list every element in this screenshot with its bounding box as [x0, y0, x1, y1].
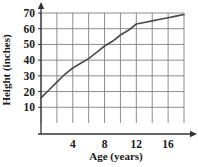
x-axis-arrowhead — [190, 131, 197, 137]
chart-container: 10203040506070 481216 Age (years) Height… — [0, 0, 198, 167]
gridlines-horizontal — [41, 13, 184, 107]
x-axis-tick-labels: 481216 — [70, 138, 174, 150]
y-axis-title: Height (inches) — [0, 34, 13, 106]
y-axis-tick-label: 30 — [24, 70, 36, 82]
y-axis-tick-label: 10 — [24, 101, 36, 113]
x-axis-tick-label: 4 — [70, 138, 76, 150]
y-axis-tick-label: 40 — [24, 54, 36, 66]
y-axis-tick-label: 50 — [24, 38, 36, 50]
axis-lines — [38, 2, 197, 137]
x-axis-title: Age (years) — [89, 150, 143, 163]
y-axis-tick-label: 20 — [24, 86, 36, 98]
growth-chart: 10203040506070 481216 Age (years) Height… — [0, 0, 198, 167]
x-axis-tick-label: 16 — [162, 138, 174, 150]
gridlines-vertical — [41, 13, 184, 123]
y-axis-tick-labels: 10203040506070 — [24, 7, 42, 113]
y-axis-arrowhead — [38, 2, 44, 9]
x-axis-tick-label: 12 — [131, 138, 143, 150]
y-axis-tick-label: 60 — [24, 23, 36, 35]
x-axis-tick-label: 8 — [102, 138, 108, 150]
height-curve — [41, 15, 184, 98]
y-axis-tick-label: 70 — [24, 7, 36, 19]
